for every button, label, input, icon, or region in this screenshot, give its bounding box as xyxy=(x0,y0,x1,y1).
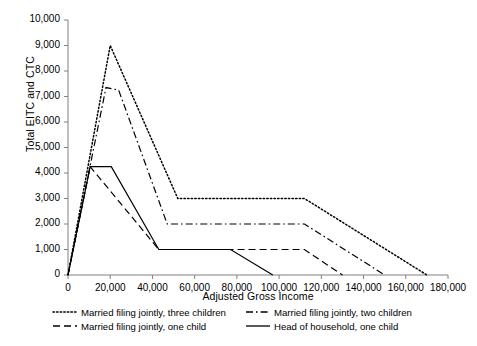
legend-label: Married filing jointly, three children xyxy=(81,307,226,318)
y-tick-label: 10,000 xyxy=(14,13,60,24)
legend-swatch-dotted-icon xyxy=(52,307,78,317)
series-line-0 xyxy=(68,46,427,276)
y-tick-label: 3,000 xyxy=(14,192,60,203)
legend-entry-three-children: Married filing jointly, three children xyxy=(52,307,245,318)
y-tick-label: 7,000 xyxy=(14,90,60,101)
y-tick-label: 2,000 xyxy=(14,217,60,228)
y-tick-label: 5,000 xyxy=(14,141,60,152)
axis-lines xyxy=(64,20,448,279)
series-line-1 xyxy=(68,88,385,275)
y-axis-title: Total EITC and CTC xyxy=(24,14,36,194)
y-tick-label: 9,000 xyxy=(14,39,60,50)
chart-figure: 01,0002,0003,0004,0005,0006,0007,0008,00… xyxy=(0,0,477,346)
y-tick-label: 0 xyxy=(14,268,60,279)
legend-label: Head of household, one child xyxy=(274,321,398,332)
y-tick-label: 8,000 xyxy=(14,64,60,75)
chart-legend: Married filing jointly, three children M… xyxy=(52,305,432,333)
x-axis-title: Adjusted Gross Income xyxy=(68,290,448,302)
legend-entry-head-of-household: Head of household, one child xyxy=(245,321,432,332)
legend-entry-two-children: Married filing jointly, two children xyxy=(245,307,432,318)
y-tick-label: 6,000 xyxy=(14,115,60,126)
legend-swatch-dash-dot-icon xyxy=(245,307,271,317)
series-line-2 xyxy=(68,167,342,275)
y-tick-label: 1,000 xyxy=(14,243,60,254)
legend-label: Married filing jointly, one child xyxy=(81,321,206,332)
legend-entry-one-child-mfj: Married filing jointly, one child xyxy=(52,321,245,332)
legend-label: Married filing jointly, two children xyxy=(274,307,412,318)
series-lines xyxy=(68,46,427,276)
legend-swatch-solid-icon xyxy=(245,321,271,331)
y-tick-label: 4,000 xyxy=(14,166,60,177)
legend-swatch-dashed-icon xyxy=(52,321,78,331)
